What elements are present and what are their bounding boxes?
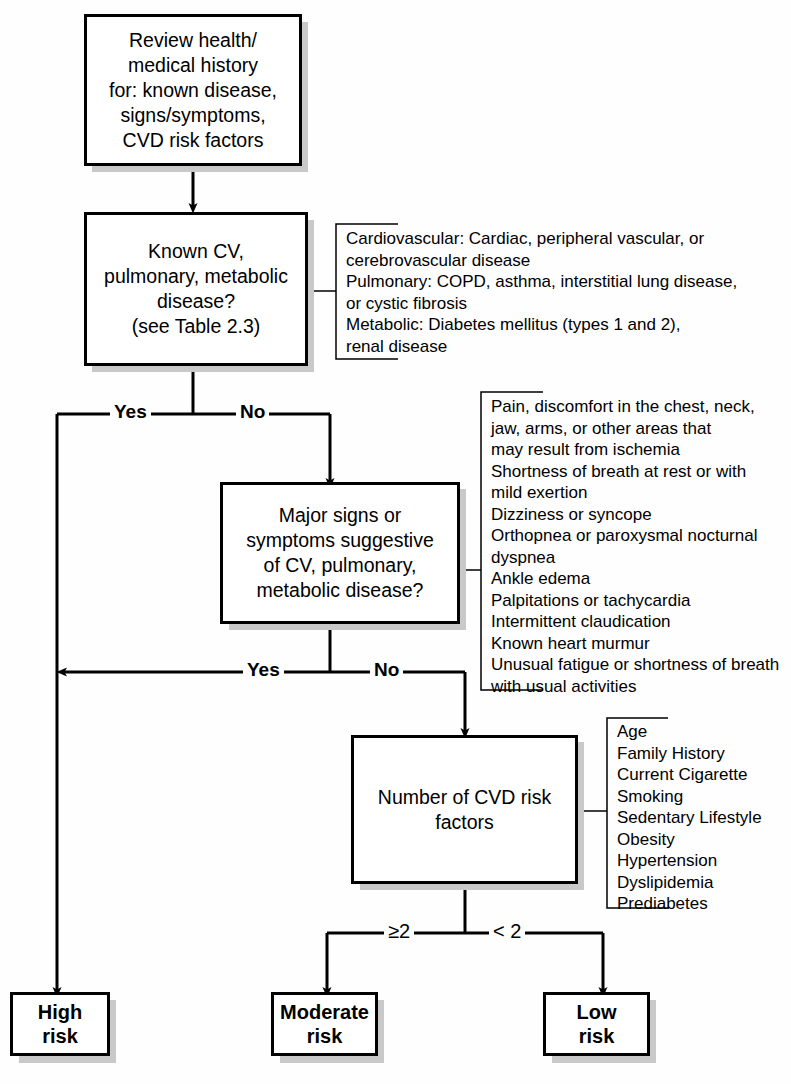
- node-review-history-label: Review health/ medical history for: know…: [103, 28, 283, 153]
- note-major-signs-examples-text: Pain, discomfort in the chest, neck, jaw…: [481, 396, 791, 697]
- edge-label-lt-2: < 2: [489, 920, 525, 943]
- edge-label-no-1: No: [236, 401, 269, 423]
- note-known-disease-examples: Cardiovascular: Cardiac, peripheral vasc…: [336, 228, 788, 358]
- node-review-history: Review health/ medical history for: know…: [84, 14, 302, 166]
- edge-label-yes-1: Yes: [110, 401, 151, 423]
- node-moderate-risk-label: Moderate risk: [274, 1000, 375, 1048]
- node-moderate-risk: Moderate risk: [271, 992, 378, 1056]
- node-low-risk-label: Low risk: [571, 1000, 623, 1048]
- edge-label-yes-2: Yes: [243, 659, 284, 681]
- node-risk-factor-count-label: Number of CVD risk factors: [372, 785, 557, 835]
- note-cvd-risk-factors: Age Family History Current Cigarette Smo…: [607, 721, 791, 907]
- node-low-risk: Low risk: [543, 992, 650, 1056]
- node-known-disease-label: Known CV, pulmonary, metabolic disease? …: [98, 239, 294, 339]
- note-major-signs-examples: Pain, discomfort in the chest, neck, jaw…: [481, 396, 791, 688]
- note-cvd-risk-factors-text: Age Family History Current Cigarette Smo…: [607, 721, 791, 915]
- edge-label-ge-2: ≥2: [384, 920, 414, 943]
- flowchart-root: Review health/ medical history for: know…: [0, 0, 791, 1084]
- edge-label-no-2: No: [370, 659, 403, 681]
- node-risk-factor-count: Number of CVD risk factors: [351, 735, 578, 884]
- node-major-signs-label: Major signs or symptoms suggestive of CV…: [240, 503, 440, 603]
- node-high-risk-label: High risk: [13, 1000, 107, 1048]
- node-high-risk: High risk: [10, 992, 110, 1056]
- node-major-signs: Major signs or symptoms suggestive of CV…: [220, 482, 460, 624]
- node-known-disease: Known CV, pulmonary, metabolic disease? …: [84, 212, 308, 366]
- note-known-disease-examples-text: Cardiovascular: Cardiac, peripheral vasc…: [336, 228, 788, 357]
